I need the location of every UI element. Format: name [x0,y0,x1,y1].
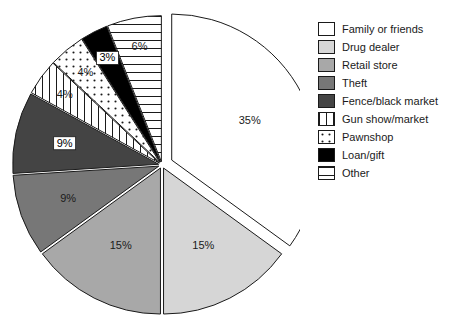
legend-item-gun-show-market[interactable]: Gun show/market [318,110,451,128]
legend-label: Gun show/market [342,112,428,126]
legend-item-drug-dealer[interactable]: Drug dealer [318,38,451,56]
legend-item-loan-gift[interactable]: Loan/gift [318,146,451,164]
pie-slice-label: 9% [60,192,76,204]
pie-chart-canvas: 35%15%15%9%9%4%4%3%6% [0,0,300,320]
pie-slice-label: 4% [77,66,93,78]
legend-item-theft[interactable]: Theft [318,74,451,92]
pie-slice-label: 3% [99,51,115,63]
chart-legend: Family or friends Drug dealer Retail sto… [318,20,451,182]
pie-chart-figure: 35%15%15%9%9%4%4%3%6% Family or friends … [0,0,451,320]
legend-item-fence-black-market[interactable]: Fence/black market [318,92,451,110]
pie-slice-label: 9% [57,137,73,149]
legend-swatch-gun-show-market [318,112,335,126]
legend-item-pawnshop[interactable]: Pawnshop [318,128,451,146]
legend-label: Theft [342,76,367,90]
pie-slice-label: 15% [110,239,132,251]
legend-swatch-retail-store [318,58,335,72]
pie-slice-label: 15% [192,239,214,251]
legend-label: Retail store [342,58,398,72]
legend-swatch-other [318,166,335,180]
legend-swatch-fence-black-market [318,94,335,108]
legend-item-other[interactable]: Other [318,164,451,182]
legend-label: Other [342,166,370,180]
pie-slices-group [13,14,300,314]
legend-item-retail-store[interactable]: Retail store [318,56,451,74]
legend-item-family-or-friends[interactable]: Family or friends [318,20,451,38]
pie-slice-label: 35% [239,114,261,126]
legend-label: Drug dealer [342,40,399,54]
legend-swatch-theft [318,76,335,90]
pie-slice-label: 6% [132,40,148,52]
legend-swatch-family-or-friends [318,22,335,36]
legend-swatch-loan-gift [318,148,335,162]
legend-label: Loan/gift [342,148,384,162]
legend-label: Family or friends [342,22,423,36]
legend-label: Pawnshop [342,130,393,144]
pie-slice-label: 4% [57,88,73,100]
legend-swatch-pawnshop [318,130,335,144]
legend-label: Fence/black market [342,94,438,108]
legend-swatch-drug-dealer [318,40,335,54]
